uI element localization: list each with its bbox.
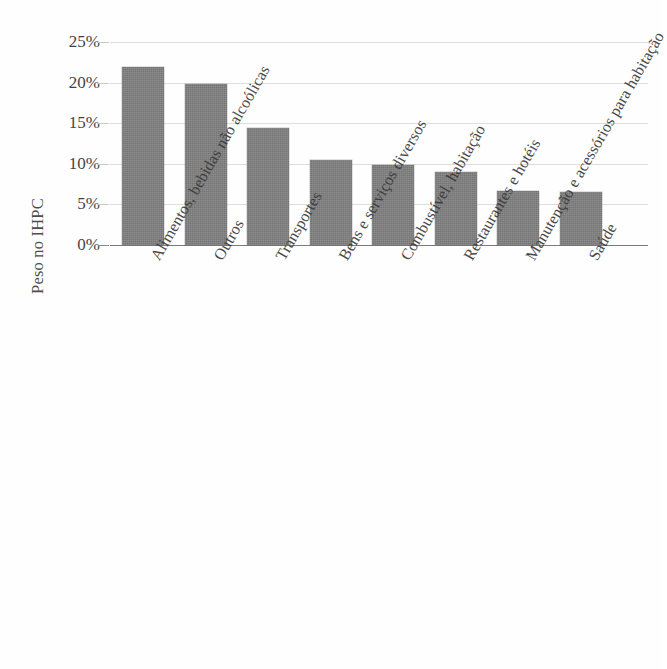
plot-area [110, 42, 648, 245]
y-tick-label: 10% [69, 154, 100, 174]
axis-baseline [110, 245, 648, 246]
y-tick-mark [98, 204, 109, 205]
y-tick-label: 5% [77, 194, 100, 214]
y-tick-mark [98, 123, 109, 124]
y-tick-mark [98, 164, 109, 165]
y-tick-label: 15% [69, 113, 100, 133]
y-tick-label: 0% [77, 235, 100, 255]
y-tick-mark [98, 42, 109, 43]
bar-series [110, 42, 648, 245]
bar [247, 128, 289, 245]
y-tick-label: 25% [69, 32, 100, 52]
y-tick-label: 20% [69, 73, 100, 93]
y-axis-tick-labels: 25%20%15%10%5%0% [0, 42, 102, 245]
y-tick-mark [98, 83, 109, 84]
y-tick-mark [98, 245, 109, 246]
bar [122, 67, 164, 245]
